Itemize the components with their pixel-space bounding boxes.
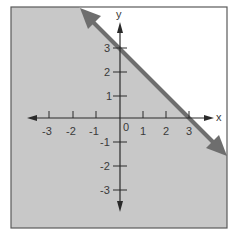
x-tick-label: 1	[140, 125, 146, 137]
x-axis-label: x	[216, 111, 222, 123]
origin-label: 0	[123, 121, 129, 133]
y-tick-label: -1	[100, 136, 110, 148]
y-axis-label: y	[116, 8, 122, 20]
y-tick-label: 3	[104, 42, 110, 54]
y-tick-label: 1	[106, 90, 112, 102]
x-tick-label: -1	[89, 125, 99, 137]
x-tick-label: 2	[163, 125, 169, 137]
y-tick-label: -2	[100, 160, 110, 172]
y-tick-label: 2	[104, 66, 110, 78]
x-tick-label: -3	[42, 125, 52, 137]
y-tick-label: -3	[100, 184, 110, 196]
inequality-graph: x y 0 -3 -2 -1 1 2 3 3 2 1 -1 -2 -3	[0, 0, 230, 236]
x-tick-label: 3	[186, 125, 192, 137]
x-tick-label: -2	[66, 125, 76, 137]
